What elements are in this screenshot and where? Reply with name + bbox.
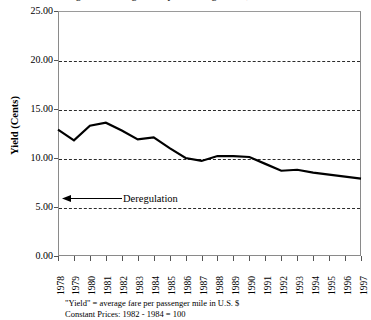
footnote-line-1: "Yield" = average fare per passenger mil…: [65, 298, 239, 309]
x-tick-mark: [106, 256, 107, 261]
x-tick-mark: [361, 256, 362, 261]
x-tick-mark: [265, 256, 266, 261]
y-tick-label: 0.00: [7, 251, 53, 261]
left-arrow-icon: [62, 193, 122, 204]
x-tick-mark: [154, 256, 155, 261]
x-tick-label: 1997: [356, 263, 367, 297]
x-tick-label: 1982: [116, 263, 127, 297]
x-tick-label: 1992: [276, 263, 287, 297]
x-tick-mark: [122, 256, 123, 261]
x-tick-mark: [345, 256, 346, 261]
x-tick-mark: [329, 256, 330, 261]
y-tick-label: 25.00: [7, 6, 53, 16]
y-tick-label: 15.00: [7, 104, 53, 114]
y-tick-label: 20.00: [7, 55, 53, 65]
series-yield-line: [58, 123, 361, 179]
x-tick-mark: [170, 256, 171, 261]
x-tick-mark: [90, 256, 91, 261]
x-tick-mark: [202, 256, 203, 261]
y-tick-label: 10.00: [7, 153, 53, 163]
chart-footnote: "Yield" = average fare per passenger mil…: [65, 298, 239, 319]
series-line-chart: [58, 11, 361, 256]
x-tick-label: 1978: [53, 263, 64, 297]
chart-figure: Figure 1: Average Yield per Passenger Mi…: [0, 0, 371, 320]
x-tick-label: 1989: [228, 263, 239, 297]
x-tick-label: 1994: [308, 263, 319, 297]
x-tick-mark: [186, 256, 187, 261]
y-tick-label: 5.00: [7, 202, 53, 212]
x-tick-mark: [249, 256, 250, 261]
x-tick-mark: [233, 256, 234, 261]
x-tick-mark: [58, 256, 59, 261]
x-tick-mark: [217, 256, 218, 261]
x-tick-label: 1996: [340, 263, 351, 297]
x-tick-label: 1981: [100, 263, 111, 297]
x-tick-label: 1983: [132, 263, 143, 297]
deregulation-annotation: Deregulation: [62, 191, 178, 205]
x-tick-label: 1987: [196, 263, 207, 297]
deregulation-label: Deregulation: [123, 193, 178, 204]
x-tick-label: 1985: [164, 263, 175, 297]
x-tick-label: 1990: [244, 263, 255, 297]
x-tick-mark: [313, 256, 314, 261]
x-tick-label: 1991: [260, 263, 271, 297]
x-tick-label: 1986: [180, 263, 191, 297]
x-tick-label: 1993: [292, 263, 303, 297]
x-tick-label: 1979: [68, 263, 79, 297]
x-tick-mark: [297, 256, 298, 261]
x-tick-mark: [138, 256, 139, 261]
x-tick-label: 1980: [84, 263, 95, 297]
x-tick-label: 1995: [324, 263, 335, 297]
footnote-line-2: Constant Prices: 1982 - 1984 = 100: [65, 309, 239, 320]
chart-title: Figure 1: Average Yield per Passenger Mi…: [0, 0, 371, 1]
x-tick-label: 1984: [148, 263, 159, 297]
y-axis-title: Yield (Cents): [9, 71, 20, 181]
x-tick-label: 1988: [212, 263, 223, 297]
x-tick-mark: [74, 256, 75, 261]
x-tick-mark: [281, 256, 282, 261]
